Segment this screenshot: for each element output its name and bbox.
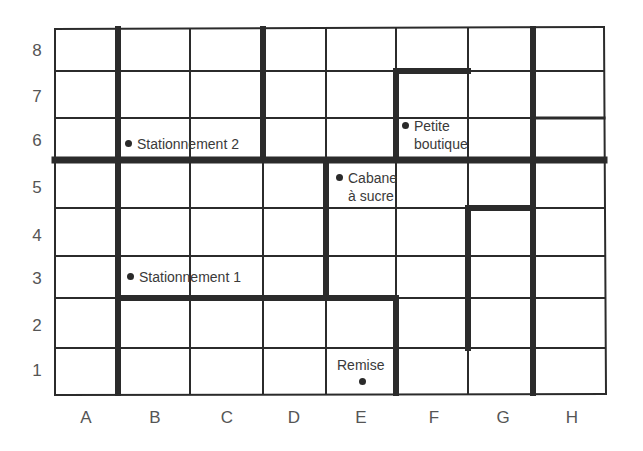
column-label-a: A (80, 409, 91, 426)
place-petite-boutique: Petiteboutique (402, 117, 468, 153)
place-cabane-a-sucre: Cabaneà sucre (336, 169, 397, 205)
place-label: Cabaneà sucre (348, 169, 397, 205)
place-label: Stationnement 2 (137, 135, 239, 153)
place-label-line-1: Cabane (348, 170, 397, 186)
row-label-7: 7 (32, 88, 41, 105)
place-stationnement-2: Stationnement 2 (125, 135, 239, 153)
row-label-4: 4 (32, 227, 41, 244)
place-label-line-1: Petite (414, 118, 450, 134)
location-dot-icon (359, 378, 366, 385)
column-label-c: C (221, 409, 233, 426)
place-label: Remise (337, 356, 384, 374)
border-right (604, 27, 606, 394)
border-top (55, 27, 604, 29)
thick-road-lines (55, 29, 604, 393)
place-remise: Remise (337, 356, 384, 374)
grid-map (0, 0, 643, 451)
border-bottom (55, 394, 606, 395)
row-label-5: 5 (32, 179, 41, 196)
column-label-b: B (149, 409, 160, 426)
place-label: Petiteboutique (414, 117, 468, 153)
location-dot-icon (127, 273, 134, 280)
place-label: Stationnement 1 (139, 268, 241, 286)
row-label-6: 6 (32, 132, 41, 149)
column-label-h: H (566, 409, 578, 426)
column-label-f: F (429, 409, 439, 426)
row-label-1: 1 (32, 362, 41, 379)
row-label-2: 2 (32, 317, 41, 334)
row-label-8: 8 (32, 42, 41, 59)
row-label-3: 3 (32, 270, 41, 287)
place-stationnement-1: Stationnement 1 (127, 268, 241, 286)
column-label-g: G (496, 409, 509, 426)
column-label-e: E (355, 409, 366, 426)
location-dot-icon (125, 140, 132, 147)
location-dot-icon (402, 122, 409, 129)
place-label-line-2: à sucre (348, 188, 394, 204)
column-label-d: D (288, 409, 300, 426)
location-dot-icon (336, 174, 343, 181)
place-label-line-2: boutique (414, 136, 468, 152)
